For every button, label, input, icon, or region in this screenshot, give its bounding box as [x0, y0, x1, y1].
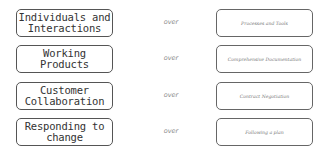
lesser-item-box: Comprehensive Documentation: [216, 45, 313, 73]
lesser-item-label: Following a plan: [245, 130, 283, 135]
lesser-item-box: Processes and Tools: [216, 9, 313, 37]
value-row: Individuals and Interactions over Proces…: [0, 9, 329, 37]
valued-item-label: Responding to change: [17, 121, 112, 143]
valued-item-label: Individuals and Interactions: [17, 12, 112, 34]
valued-item-box: Customer Collaboration: [16, 82, 113, 110]
over-label: over: [158, 127, 184, 135]
lesser-item-box: Contract Negotiation: [216, 82, 313, 110]
valued-item-box: Responding to change: [16, 118, 113, 146]
lesser-item-label: Contract Negotiation: [240, 94, 289, 99]
over-label: over: [158, 18, 184, 26]
valued-item-box: Individuals and Interactions: [16, 9, 113, 37]
lesser-item-label: Processes and Tools: [241, 21, 288, 26]
valued-item-box: Working Products: [16, 45, 113, 73]
valued-item-label: Customer Collaboration: [17, 85, 112, 107]
value-row: Responding to change over Following a pl…: [0, 118, 329, 146]
value-row: Customer Collaboration over Contract Neg…: [0, 82, 329, 110]
over-label: over: [158, 54, 184, 62]
valued-item-label: Working Products: [17, 48, 112, 70]
over-label: over: [158, 91, 184, 99]
lesser-item-label: Comprehensive Documentation: [228, 57, 301, 62]
lesser-item-box: Following a plan: [216, 118, 313, 146]
value-row: Working Products over Comprehensive Docu…: [0, 45, 329, 73]
